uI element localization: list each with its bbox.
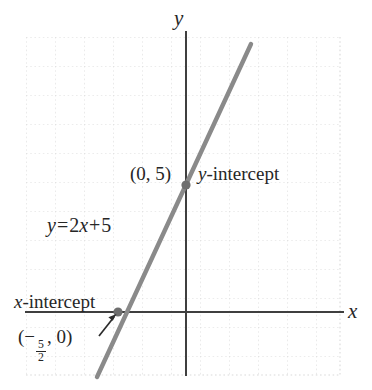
x-intercept-comma: , — [47, 326, 52, 347]
x-intercept-close-paren: ) — [66, 326, 72, 347]
x-intercept-fraction: 52 — [36, 339, 46, 365]
y-axis-label: y — [174, 8, 183, 29]
grid-lines — [26, 37, 340, 375]
x-intercept-coordinate-label: (−52, 0) — [18, 327, 72, 364]
equation-equals: = — [56, 214, 69, 236]
equation-constant: 5 — [101, 214, 111, 236]
fraction-denominator: 2 — [36, 352, 46, 364]
x-intercept-caption: x-intercept — [14, 292, 95, 311]
equation-variable: x — [79, 214, 88, 236]
equation-slope: 2 — [69, 214, 79, 236]
x-intercept-y-value: 0 — [56, 326, 66, 347]
x-axis-label: x — [348, 301, 357, 322]
y-intercept-marker — [181, 180, 190, 189]
y-intercept-coordinate-label: (0, 5) — [130, 164, 171, 183]
y-intercept-caption-text: -intercept — [206, 163, 279, 184]
y-intercept-caption: y-intercept — [198, 164, 279, 183]
equation-label: y=2x+5 — [47, 215, 111, 235]
fraction-numerator: 5 — [36, 339, 46, 352]
equation-lhs: y — [47, 214, 56, 236]
x-intercept-minus-sign: − — [24, 326, 35, 347]
coordinate-graph-figure: y x (0, 5) y-intercept y=2x+5 x-intercep… — [0, 0, 372, 390]
equation-plus: + — [88, 214, 101, 236]
x-intercept-caption-text: -intercept — [22, 291, 95, 312]
